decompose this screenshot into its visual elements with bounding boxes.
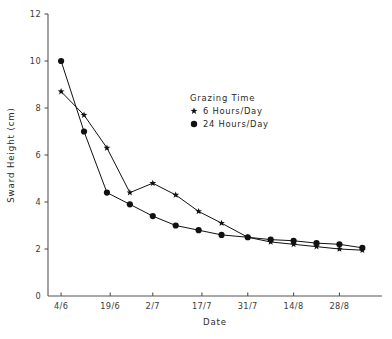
x-tick-label: 19/6: [100, 301, 120, 311]
sward-height-chart: 0246810124/619/62/717/731/714/828/8Sward…: [0, 0, 392, 339]
x-tick-label: 2/7: [146, 301, 160, 311]
series-line-twentyfour-hours: [61, 61, 362, 248]
x-tick-label: 4/6: [54, 301, 68, 311]
data-point-circle: [196, 227, 202, 233]
data-point-circle: [127, 201, 133, 207]
y-axis-title: Sward Height (cm): [6, 107, 16, 203]
legend-label-six-hours: 6 Hours/Day: [203, 106, 263, 116]
data-point-circle: [150, 213, 156, 219]
legend-label-twentyfour-hours: 24 Hours/Day: [203, 119, 269, 129]
data-point-circle: [268, 237, 274, 243]
x-tick-label: 17/7: [192, 301, 212, 311]
y-tick-label: 8: [35, 103, 41, 113]
y-tick-label: 2: [35, 244, 41, 254]
x-tick-label: 31/7: [238, 301, 258, 311]
y-tick-label: 10: [30, 56, 41, 66]
y-tick-label: 4: [35, 197, 41, 207]
data-point-star: [195, 208, 202, 214]
x-axis-title: Date: [203, 317, 227, 327]
legend-title: Grazing Time: [190, 93, 255, 103]
data-point-circle: [104, 190, 110, 196]
data-point-circle: [313, 240, 319, 246]
data-point-circle: [245, 234, 251, 240]
data-point-circle: [290, 238, 296, 244]
data-point-circle: [336, 241, 342, 247]
x-tick-label: 28/8: [329, 301, 349, 311]
chart-plot-area: 0246810124/619/62/717/731/714/828/8Sward…: [0, 0, 392, 339]
data-point-star: [127, 189, 134, 195]
data-point-star: [218, 220, 225, 226]
legend-star-icon: [191, 107, 198, 114]
figure-caption: [0, 330, 392, 339]
data-point-circle: [58, 58, 64, 64]
legend-circle-icon: [191, 121, 197, 127]
data-point-circle: [218, 232, 224, 238]
y-tick-label: 12: [30, 9, 41, 19]
data-point-circle: [81, 128, 87, 134]
data-point-circle: [173, 222, 179, 228]
y-tick-label: 6: [35, 150, 41, 160]
data-point-star: [149, 180, 156, 186]
y-tick-label: 0: [35, 291, 41, 301]
x-tick-label: 14/8: [284, 301, 304, 311]
data-point-circle: [359, 245, 365, 251]
